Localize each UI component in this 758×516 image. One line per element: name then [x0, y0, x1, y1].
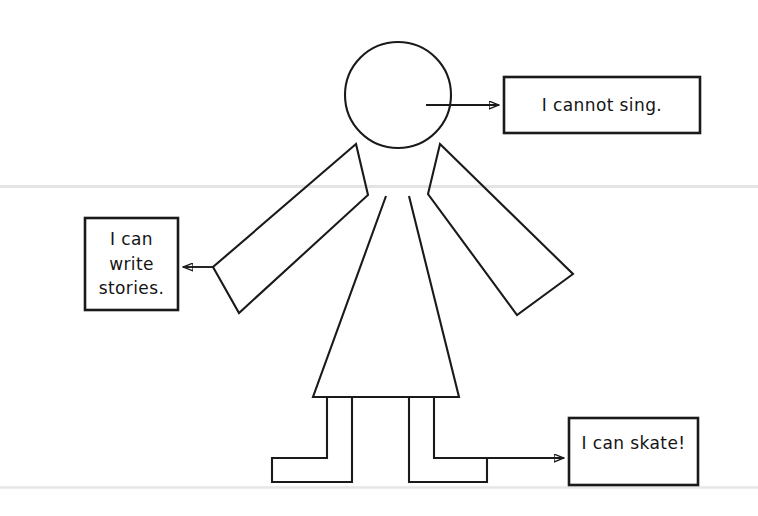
- figure-right-arm: [428, 144, 573, 315]
- callout-arrows: [183, 105, 564, 458]
- callout-box-cannot-sing[interactable]: [504, 77, 700, 133]
- figure-left-leg: [272, 397, 352, 482]
- figure-right-leg: [409, 397, 487, 482]
- figure-head: [345, 42, 451, 148]
- diagram-canvas: I cannot sing. I can write stories. I ca…: [0, 0, 758, 516]
- callout-box-write-stories[interactable]: [85, 218, 178, 310]
- figure-left-arm: [213, 144, 368, 313]
- diagram-svg: [0, 0, 758, 516]
- callout-box-skate[interactable]: [569, 418, 698, 485]
- callout-boxes: [85, 77, 700, 485]
